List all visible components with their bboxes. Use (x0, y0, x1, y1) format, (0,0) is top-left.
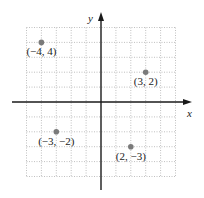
data-point (143, 69, 149, 75)
x-axis-arrow-icon (183, 99, 192, 105)
axes: x y (12, 12, 192, 190)
point-label: (−3, −2) (38, 135, 75, 148)
data-point (128, 144, 134, 150)
y-axis-arrow-icon (98, 12, 104, 21)
coordinate-plane: x y (−4, 4)(3, 2)(−3, −2)(2, −3) (0, 0, 204, 198)
point-label: (3, 2) (134, 75, 158, 88)
x-axis-label: x (186, 107, 192, 119)
point-label: (−4, 4) (26, 45, 56, 58)
data-point (39, 40, 45, 46)
data-point (54, 129, 60, 135)
y-axis-label: y (87, 12, 93, 24)
points: (−4, 4)(3, 2)(−3, −2)(2, −3) (26, 40, 158, 163)
point-label: (2, −3) (116, 150, 146, 163)
